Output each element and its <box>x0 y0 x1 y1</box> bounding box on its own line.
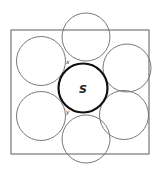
outer-circle-bottom <box>62 115 110 163</box>
outer-circle-top <box>62 13 110 61</box>
circle-packing-diagram: S xy <box>0 0 156 170</box>
outer-circle-upper-left <box>17 37 66 86</box>
outer-circle-upper-right <box>103 44 151 92</box>
gap-label-y: y <box>65 108 70 116</box>
gap-label-x: x <box>65 58 70 65</box>
center-circle-label: S <box>79 83 87 96</box>
outer-circle-lower-right <box>100 91 149 140</box>
outer-circle-lower-left <box>17 92 66 141</box>
